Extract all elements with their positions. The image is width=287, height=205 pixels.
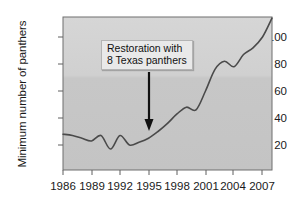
restoration-annotation: Restoration with 8 Texas panthers [101, 40, 193, 70]
panther-population-chart: Minimum number of panthers 100 80 60 40 … [0, 0, 287, 205]
annotation-line-1: Restoration with [107, 43, 187, 55]
y-axis-ticks [58, 37, 63, 145]
plot-area [0, 0, 287, 205]
annotation-line-2: 8 Texas panthers [107, 55, 187, 67]
x-axis-ticks [63, 170, 262, 175]
